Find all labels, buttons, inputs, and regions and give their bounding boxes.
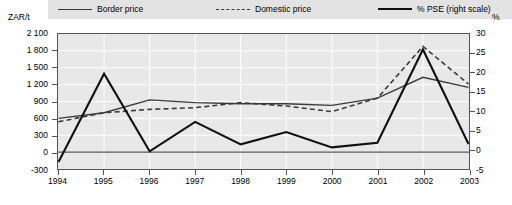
y-tick-label: 1 200 xyxy=(2,80,48,89)
y-tick-mark xyxy=(52,153,57,154)
y2-tick-mark xyxy=(470,92,475,93)
y2-tick-label: 0 xyxy=(476,146,498,155)
x-tick-label: 2002 xyxy=(402,177,446,186)
legend-label-pse: % PSE (right scale) xyxy=(417,5,491,14)
y2-tick-mark xyxy=(470,72,475,73)
x-tick-label: 2000 xyxy=(310,177,354,186)
plot-svg xyxy=(58,34,469,169)
legend-item-border-price: Border price xyxy=(58,0,143,19)
chart-legend: Border price Domestic price % PSE (right… xyxy=(48,0,512,19)
y2-tick-label: 30 xyxy=(476,29,498,38)
y-tick-label: 300 xyxy=(2,131,48,140)
plot-area xyxy=(57,33,470,170)
x-tick-label: 1999 xyxy=(264,177,308,186)
x-tick-label: 2001 xyxy=(356,177,400,186)
legend-swatch-domestic-price xyxy=(216,9,250,10)
y2-tick-mark xyxy=(470,111,475,112)
series-layer xyxy=(58,46,468,162)
y-tick-mark xyxy=(52,67,57,68)
y2-tick-label: 10 xyxy=(476,107,498,116)
x-tick-label: 1997 xyxy=(173,177,217,186)
y2-tick-label: 15 xyxy=(476,87,498,96)
y2-tick-mark xyxy=(470,53,475,54)
x-tick-mark xyxy=(378,170,379,175)
y-tick-label: 2 100 xyxy=(2,29,48,38)
legend-item-pse: % PSE (right scale) xyxy=(378,0,491,19)
y2-tick-label: 25 xyxy=(476,48,498,57)
y-tick-mark xyxy=(52,50,57,51)
y-tick-label: -300 xyxy=(2,166,48,175)
y-axis-unit-label: ZAR/t xyxy=(8,12,30,22)
legend-swatch-pse xyxy=(378,8,412,11)
x-tick-label: 1994 xyxy=(36,177,80,186)
y2-tick-mark xyxy=(470,131,475,132)
y2-tick-label: -5 xyxy=(476,166,498,175)
x-tick-label: 1995 xyxy=(81,177,125,186)
legend-item-domestic-price: Domestic price xyxy=(216,0,311,19)
legend-label-border-price: Border price xyxy=(97,5,143,14)
x-tick-label: 1998 xyxy=(219,177,263,186)
x-tick-mark xyxy=(149,170,150,175)
x-tick-mark xyxy=(470,170,471,175)
x-tick-mark xyxy=(103,170,104,175)
y-tick-label: 900 xyxy=(2,97,48,106)
series-line-2 xyxy=(58,49,468,162)
y2-axis-unit-label: % xyxy=(492,12,500,22)
y-tick-mark xyxy=(52,102,57,103)
x-tick-mark xyxy=(195,170,196,175)
y-tick-label: 1 500 xyxy=(2,63,48,72)
legend-swatch-border-price xyxy=(58,9,92,11)
chart-figure: Border price Domestic price % PSE (right… xyxy=(0,0,512,205)
y-tick-mark xyxy=(52,136,57,137)
legend-label-domestic-price: Domestic price xyxy=(255,5,311,14)
x-tick-mark xyxy=(424,170,425,175)
x-tick-mark xyxy=(332,170,333,175)
y2-tick-label: 5 xyxy=(476,126,498,135)
x-tick-mark xyxy=(241,170,242,175)
y-tick-mark xyxy=(52,119,57,120)
y2-tick-label: 20 xyxy=(476,68,498,77)
x-tick-mark xyxy=(286,170,287,175)
y-tick-mark xyxy=(52,84,57,85)
y2-tick-mark xyxy=(470,150,475,151)
y-tick-label: 600 xyxy=(2,114,48,123)
x-tick-label: 1996 xyxy=(127,177,171,186)
y-tick-label: 0 xyxy=(2,148,48,157)
x-tick-mark xyxy=(58,170,59,175)
x-tick-label: 2003 xyxy=(448,177,492,186)
y-tick-label: 1 800 xyxy=(2,46,48,55)
